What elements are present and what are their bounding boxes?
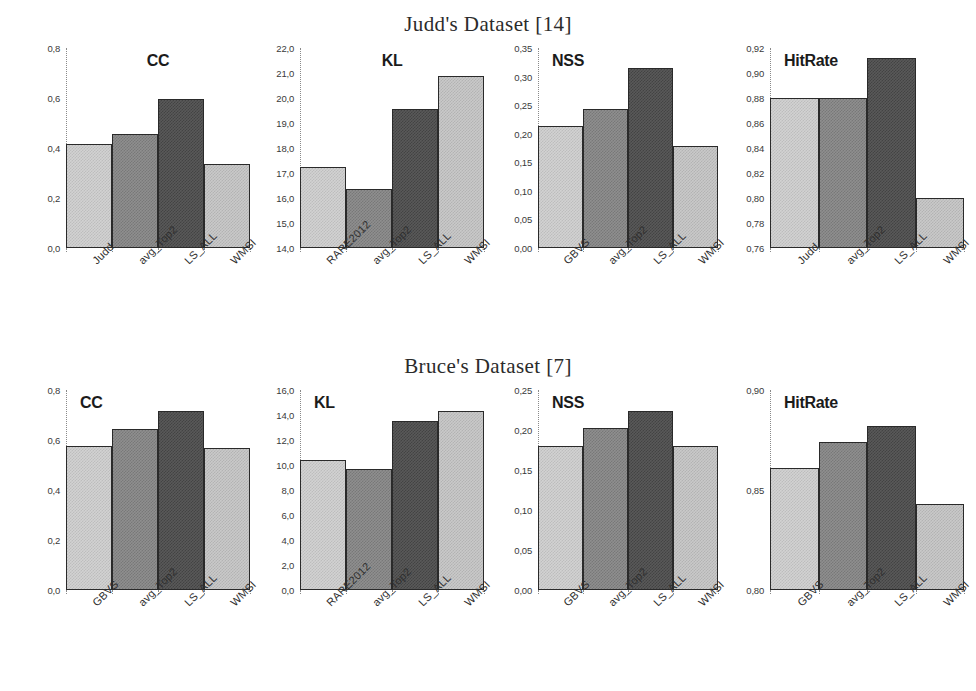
x-axis-labels: GBVSavg_Top2LS_ALLWMSI	[770, 594, 964, 680]
bar-gbvs[interactable]	[538, 446, 583, 590]
plot-area: HitRate	[770, 390, 964, 590]
bar-series	[300, 390, 484, 590]
y-axis-tick-label: 0,6	[47, 93, 60, 104]
bar-rare2012[interactable]	[300, 460, 346, 590]
x-axis-labels: Juddavg_Top2LS_ALLWMSI	[770, 252, 964, 338]
x-axis-labels: GBVSavg_Top2LS_ALLWMSI	[66, 594, 250, 680]
plot-area: KL	[300, 390, 484, 590]
dataset-title-judd: Judd's Dataset [14]	[0, 12, 976, 37]
y-axis-tick-label: 0,76	[746, 243, 764, 254]
y-axis-tick-label: 19,0	[276, 118, 294, 129]
y-axis: 0,000,050,100,150,200,25	[490, 390, 536, 590]
plot-area: CC	[66, 390, 250, 590]
y-axis-tick-label: 6,0	[281, 510, 294, 521]
y-axis-tick-label: 22,0	[276, 43, 294, 54]
y-axis-tick-label: 17,0	[276, 168, 294, 179]
x-axis-labels: Juddavg_Top2LS_ALLWMSI	[66, 252, 250, 338]
y-axis-tick-label: 0,82	[746, 168, 764, 179]
bar-rare2012[interactable]	[300, 167, 346, 248]
y-axis-tick-label: 0,10	[514, 505, 532, 516]
metric-title: NSS	[552, 394, 584, 412]
panel-judd-kl: 14,015,016,017,018,019,020,021,022,0KLRA…	[252, 48, 488, 338]
y-axis-tick-label: 0,0	[47, 585, 60, 596]
bar-judd[interactable]	[66, 144, 112, 248]
y-axis-tick-label: 0,80	[746, 193, 764, 204]
y-axis-tick-label: 0,80	[746, 585, 764, 596]
bar-wmsi[interactable]	[673, 446, 718, 590]
bar-wmsi[interactable]	[438, 76, 484, 249]
y-axis-tick-label: 0,00	[514, 243, 532, 254]
bar-avg-top2[interactable]	[583, 428, 628, 590]
panel-judd-hitrate: 0,760,780,800,820,840,860,880,900,92HitR…	[722, 48, 968, 338]
metric-title: HitRate	[784, 52, 838, 70]
y-axis-tick-label: 0,85	[746, 485, 764, 496]
y-axis-tick-label: 16,0	[276, 193, 294, 204]
bar-gbvs[interactable]	[538, 126, 583, 248]
x-axis-labels: GBVSavg_Top2LS_ALLWMSI	[538, 594, 718, 680]
bar-ls-all[interactable]	[158, 411, 204, 590]
bar-avg-top2[interactable]	[112, 134, 158, 248]
panel-judd-nss: 0,000,050,100,150,200,250,300,35NSSGBVSa…	[490, 48, 722, 338]
y-axis-tick-label: 10,0	[276, 460, 294, 471]
y-axis-tick-label: 0,6	[47, 435, 60, 446]
bar-avg-top2[interactable]	[819, 98, 868, 248]
y-axis-tick-label: 4,0	[281, 535, 294, 546]
bar-ls-all[interactable]	[158, 99, 204, 249]
y-axis-tick-label: 0,0	[281, 585, 294, 596]
bar-avg-top2[interactable]	[583, 109, 628, 248]
y-axis: 0,00,20,40,60,8	[18, 390, 64, 590]
y-axis-tick-label: 0,15	[514, 465, 532, 476]
y-axis-tick-label: 0,05	[514, 214, 532, 225]
panel-bruce-hitrate: 0,800,850,90HitRateGBVSavg_Top2LS_ALLWMS…	[722, 390, 968, 680]
metric-title: HitRate	[784, 394, 838, 412]
bar-ls-all[interactable]	[867, 58, 916, 248]
y-axis: 0,000,050,100,150,200,250,300,35	[490, 48, 536, 248]
y-axis-tick-label: 0,8	[47, 385, 60, 396]
y-axis: 0,02,04,06,08,010,012,014,016,0	[252, 390, 298, 590]
y-axis-tick-label: 20,0	[276, 93, 294, 104]
plot-area: KL	[300, 48, 484, 248]
y-axis-tick-label: 0,90	[746, 385, 764, 396]
bar-avg-top2[interactable]	[819, 442, 868, 590]
y-axis-tick-label: 14,0	[276, 243, 294, 254]
y-axis-tick-label: 18,0	[276, 143, 294, 154]
bar-series	[770, 48, 964, 248]
y-axis-tick-label: 0,88	[746, 93, 764, 104]
y-axis-tick-label: 0,15	[514, 157, 532, 168]
y-axis-tick-label: 0,10	[514, 185, 532, 196]
y-axis-tick-label: 0,05	[514, 545, 532, 556]
plot-area: HitRate	[770, 48, 964, 248]
metric-title: CC	[147, 52, 170, 70]
plot-area: NSS	[538, 390, 718, 590]
y-axis-tick-label: 8,0	[281, 485, 294, 496]
bar-gbvs[interactable]	[66, 446, 112, 590]
y-axis-tick-label: 16,0	[276, 385, 294, 396]
bar-avg-top2[interactable]	[112, 429, 158, 590]
plot-area: NSS	[538, 48, 718, 248]
y-axis-tick-label: 0,84	[746, 143, 764, 154]
y-axis-tick-label: 12,0	[276, 435, 294, 446]
bar-wmsi[interactable]	[438, 411, 484, 590]
bar-ls-all[interactable]	[628, 411, 673, 590]
bar-gbvs[interactable]	[770, 468, 819, 590]
y-axis-tick-label: 0,20	[514, 128, 532, 139]
plot-area: CC	[66, 48, 250, 248]
y-axis-tick-label: 2,0	[281, 560, 294, 571]
bar-series	[66, 48, 250, 248]
y-axis: 0,00,20,40,60,8	[18, 48, 64, 248]
y-axis-tick-label: 0,4	[47, 485, 60, 496]
x-axis-labels: RARE2012avg_Top2LS_ALLWMSI	[300, 252, 484, 338]
bar-ls-all[interactable]	[867, 426, 916, 590]
bar-judd[interactable]	[770, 98, 819, 248]
metric-title: KL	[314, 394, 335, 412]
bar-ls-all[interactable]	[392, 421, 438, 590]
y-axis-tick-label: 0,20	[514, 425, 532, 436]
y-axis-tick-label: 14,0	[276, 410, 294, 421]
bar-wmsi[interactable]	[204, 448, 250, 591]
y-axis: 14,015,016,017,018,019,020,021,022,0	[252, 48, 298, 248]
y-axis-tick-label: 0,86	[746, 118, 764, 129]
bar-ls-all[interactable]	[628, 68, 673, 248]
metric-title: CC	[80, 394, 103, 412]
y-axis-tick-label: 0,35	[514, 43, 532, 54]
metric-title: KL	[382, 52, 403, 70]
